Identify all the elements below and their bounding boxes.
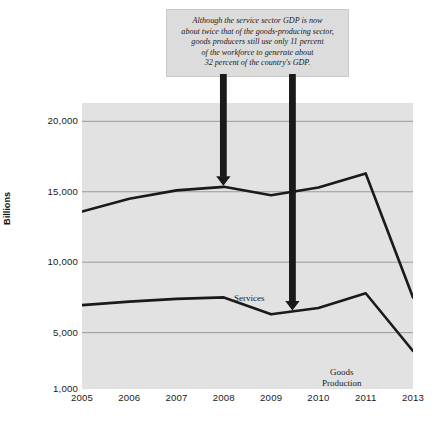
plot-area: Services Goods Production [82,103,413,389]
series-label-goods-line2: Production [322,378,362,389]
y-tick-label: 1,000 [6,383,78,394]
series-lines [82,103,413,389]
y-tick-label: 15,000 [6,186,78,197]
x-axis-ticks: 20052006200720082009201020112013 [82,392,413,410]
x-tick-label: 2007 [165,392,187,403]
x-tick-label: 2006 [118,392,140,403]
y-tick-label: 5,000 [6,327,78,338]
callout-line-4: of the workforce to generate about [174,48,341,59]
series-label-goods-line1: Goods [322,367,362,378]
callout-line-2: about twice that of the goods-producing … [174,27,341,38]
x-tick-label: 2013 [402,392,424,403]
callout-line-5: 32 percent of the country's GDP. [174,58,341,69]
series-label-goods: Goods Production [322,367,362,389]
x-tick-label: 2005 [71,392,93,403]
y-tick-label: 20,000 [6,115,78,126]
x-tick-label: 2010 [307,392,329,403]
series-label-services: Services [234,293,265,303]
callout-note: Although the service sector GDP is now a… [166,9,349,77]
x-tick-label: 2009 [260,392,282,403]
x-tick-label: 2008 [213,392,235,403]
callout-line-3: goods producers still use only 11 percen… [174,37,341,48]
series-line-services [82,173,413,297]
x-tick-label: 2011 [355,392,376,403]
callout-line-1: Although the service sector GDP is now [174,16,341,27]
y-axis-ticks: 20,00015,00010,0005,0001,000 [0,103,78,389]
chart-figure: Although the service sector GDP is now a… [0,0,442,447]
y-tick-label: 10,000 [6,256,78,267]
